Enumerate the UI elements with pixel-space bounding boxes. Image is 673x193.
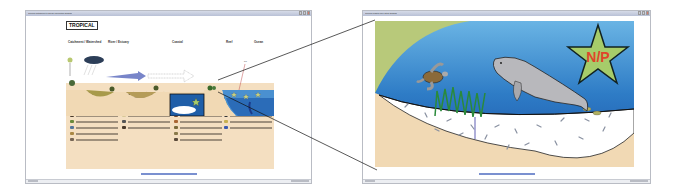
svg-text:Fe: Fe (244, 60, 248, 63)
zone-label: Ocean (254, 40, 263, 44)
zone-label: Coastal (172, 40, 183, 44)
title-bar[interactable]: Tropical coastal zone detail diagram (363, 11, 650, 16)
close-button[interactable] (307, 11, 310, 15)
svg-text:N/P: N/P (586, 49, 609, 65)
zone-label: Catchment / Watershed (68, 40, 101, 44)
browser-window-overview: Tropical Catchment to Ocean conceptual d… (25, 10, 312, 184)
return-link[interactable]: Click on image to return (363, 173, 650, 175)
maximize-button[interactable] (303, 11, 306, 15)
maximize-button[interactable] (642, 11, 645, 15)
status-text: Done (365, 180, 375, 182)
zone-labels: Catchment / Watershed River / Estuary Co… (66, 40, 274, 45)
conceptual-diagram[interactable]: TROPICAL Catchment / Watershed River / E… (66, 21, 274, 171)
status-text: Done (28, 180, 38, 182)
region-tag: TROPICAL (66, 21, 98, 30)
zoom-link[interactable]: Click on image to zoom in (26, 173, 311, 175)
zone-label: Reef (226, 40, 233, 44)
desktop: Tropical Catchment to Ocean conceptual d… (0, 0, 673, 193)
window-title: Tropical Catchment to Ocean conceptual d… (28, 11, 72, 16)
zoomed-coastal-image[interactable]: N/P (375, 21, 634, 167)
status-bar: Done Internet (26, 179, 311, 183)
zone-label: River / Estuary (108, 40, 129, 44)
status-bar: Done Internet (363, 179, 650, 183)
status-zone: Internet (291, 180, 309, 182)
minimize-button[interactable] (299, 11, 302, 15)
browser-window-zoomed: Tropical coastal zone detail diagram (362, 10, 651, 184)
title-bar[interactable]: Tropical Catchment to Ocean conceptual d… (26, 11, 311, 16)
minimize-button[interactable] (638, 11, 641, 15)
close-button[interactable] (646, 11, 649, 15)
status-zone: Internet (630, 180, 648, 182)
landscape-illustration: Fe (66, 56, 274, 116)
window-title: Tropical coastal zone detail diagram (365, 11, 397, 16)
